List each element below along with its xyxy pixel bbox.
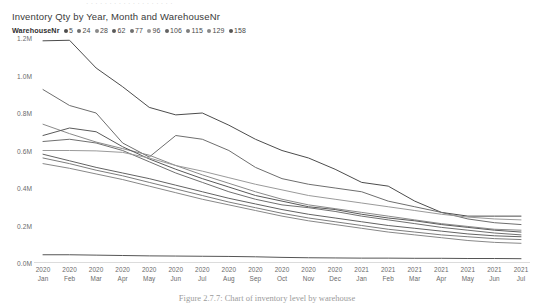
line-series-158[interactable] xyxy=(43,255,521,259)
legend-item-label: 62 xyxy=(118,27,126,34)
legend-item-5[interactable]: 5 xyxy=(64,27,74,34)
x-axis-tick-label: 2021Jun xyxy=(487,265,502,283)
x-axis-tick-label: 2020Apr xyxy=(115,265,130,283)
chart-legend: WarehouseNr 52428627796106115129158 xyxy=(12,25,250,36)
legend-swatch-icon xyxy=(147,29,151,33)
x-tick-month: Jun xyxy=(168,274,183,283)
x-tick-month: Jan xyxy=(354,274,369,283)
legend-item-129[interactable]: 129 xyxy=(207,27,224,34)
chart-title: Inventory Qty by Year, Month and Warehou… xyxy=(12,11,220,23)
x-tick-year: 2021 xyxy=(354,265,369,274)
x-tick-month: Mar xyxy=(407,274,422,283)
legend-item-label: 77 xyxy=(135,27,143,34)
x-axis-tick-label: 2021Feb xyxy=(381,265,396,283)
x-tick-month: Nov xyxy=(301,274,316,283)
x-tick-year: 2021 xyxy=(514,265,529,274)
x-tick-year: 2020 xyxy=(89,265,104,274)
x-axis-tick-label: 2021Apr xyxy=(434,265,449,283)
legend-swatch-icon xyxy=(64,29,68,33)
y-axis-tick-label: 1.0M xyxy=(17,72,32,79)
legend-item-96[interactable]: 96 xyxy=(147,27,161,34)
x-tick-year: 2020 xyxy=(115,265,130,274)
x-tick-month: Jun xyxy=(487,274,502,283)
y-axis-tick-label: 0.8M xyxy=(17,110,32,117)
legend-item-label: 106 xyxy=(170,27,182,34)
legend-swatch-icon xyxy=(229,29,233,33)
x-tick-month: Oct xyxy=(275,274,290,283)
x-axis-tick-label: 2020Mar xyxy=(89,265,104,283)
x-tick-year: 2021 xyxy=(487,265,502,274)
legend-item-158[interactable]: 158 xyxy=(229,27,246,34)
x-tick-month: Feb xyxy=(62,274,77,283)
legend-swatch-icon xyxy=(95,29,99,33)
x-axis-tick-label: 2021Jan xyxy=(354,265,369,283)
legend-swatch-icon xyxy=(165,29,169,33)
y-axis-tick-label: 0.4M xyxy=(17,185,32,192)
y-axis: 1.2M1.0M0.8M0.6M0.4M0.2M0.0M xyxy=(4,38,32,263)
x-tick-year: 2021 xyxy=(434,265,449,274)
legend-swatch-icon xyxy=(112,29,116,33)
x-tick-year: 2020 xyxy=(142,265,157,274)
line-series-77[interactable] xyxy=(43,139,521,235)
legend-item-label: 158 xyxy=(234,27,246,34)
x-tick-month: Dec xyxy=(328,274,343,283)
x-axis-tick-label: 2020Aug xyxy=(222,265,237,283)
x-axis-tick-label: 2021Jul xyxy=(514,265,529,283)
x-axis-tick-label: 2020Jul xyxy=(195,265,210,283)
x-tick-month: May xyxy=(142,274,157,283)
legend-swatch-icon xyxy=(186,29,190,33)
line-series-24[interactable] xyxy=(43,90,521,225)
legend-item-label: 5 xyxy=(69,27,73,34)
x-tick-year: 2021 xyxy=(461,265,476,274)
x-axis-tick-label: 2020May xyxy=(142,265,157,283)
legend-item-label: 115 xyxy=(192,27,203,34)
y-axis-tick-label: 0.6M xyxy=(17,147,32,154)
line-series-129[interactable] xyxy=(43,164,521,244)
x-tick-year: 2020 xyxy=(168,265,183,274)
x-axis-tick-label: 2021May xyxy=(461,265,476,283)
x-axis-tick-label: 2020Feb xyxy=(62,265,77,283)
x-tick-month: Jan xyxy=(36,274,51,283)
x-tick-year: 2020 xyxy=(222,265,237,274)
x-axis-tick-label: 2020Jan xyxy=(36,265,51,283)
x-tick-month: Jul xyxy=(195,274,210,283)
legend-item-label: 24 xyxy=(83,27,91,34)
legend-item-label: 129 xyxy=(213,27,225,34)
plot-wrapper: 1.2M1.0M0.8M0.6M0.4M0.2M0.0M 2020Jan2020… xyxy=(0,38,534,290)
x-tick-month: Sep xyxy=(248,274,263,283)
x-tick-month: May xyxy=(461,274,476,283)
x-tick-year: 2020 xyxy=(36,265,51,274)
x-tick-year: 2021 xyxy=(381,265,396,274)
line-series-svg xyxy=(34,38,530,263)
legend-item-24[interactable]: 24 xyxy=(77,27,91,34)
legend-item-106[interactable]: 106 xyxy=(165,27,182,34)
legend-item-77[interactable]: 77 xyxy=(130,27,144,34)
x-tick-month: Apr xyxy=(434,274,449,283)
y-axis-tick-label: 1.2M xyxy=(17,35,32,42)
legend-swatch-icon xyxy=(207,29,211,33)
plot-area xyxy=(34,38,530,263)
x-tick-month: Aug xyxy=(222,274,237,283)
x-tick-year: 2020 xyxy=(195,265,210,274)
legend-item-28[interactable]: 28 xyxy=(95,27,109,34)
legend-item-115[interactable]: 115 xyxy=(186,27,203,34)
x-tick-year: 2021 xyxy=(407,265,422,274)
x-tick-year: 2020 xyxy=(248,265,263,274)
x-tick-month: Apr xyxy=(115,274,130,283)
chart-visual: Inventory Qty by Year, Month and Warehou… xyxy=(0,8,534,290)
x-axis-tick-label: 2020Dec xyxy=(328,265,343,283)
y-axis-tick-label: 0.0M xyxy=(17,260,32,267)
cut-off-header-text: · · · · · · · · · · · · · · · · · · · xyxy=(0,0,534,8)
x-axis-tick-label: 2020Jun xyxy=(168,265,183,283)
x-axis-tick-label: 2020Oct xyxy=(275,265,290,283)
x-axis-tick-label: 2020Nov xyxy=(301,265,316,283)
x-tick-month: Mar xyxy=(89,274,104,283)
x-tick-year: 2020 xyxy=(328,265,343,274)
legend-item-label: 28 xyxy=(100,27,108,34)
x-tick-year: 2020 xyxy=(301,265,316,274)
legend-item-62[interactable]: 62 xyxy=(112,27,126,34)
x-axis-tick-label: 2020Sep xyxy=(248,265,263,283)
y-axis-tick-label: 0.2M xyxy=(17,222,32,229)
x-tick-year: 2020 xyxy=(275,265,290,274)
x-axis: 2020Jan2020Feb2020Mar2020Apr2020May2020J… xyxy=(34,265,530,289)
